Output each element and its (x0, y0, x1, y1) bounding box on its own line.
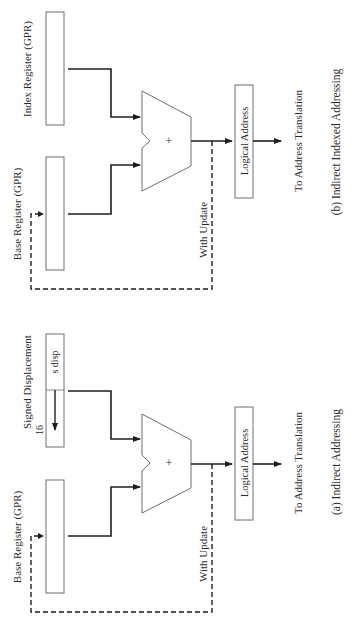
panel-a-indirect: s disp Signed Displacement 16 Base Regis… (11, 334, 343, 612)
base-register-label-a: Base Register (GPR) (11, 491, 24, 584)
signed-displacement-label: Signed Displacement (21, 335, 33, 429)
base-register-box (46, 157, 64, 270)
base-to-adder-wire (68, 165, 140, 214)
feedback-arrowhead-a (38, 533, 44, 539)
logical-address-label: Logical Address (239, 107, 250, 176)
s-disp-field-label: s disp (49, 350, 60, 373)
displacement-width-label: 16 (34, 425, 45, 435)
base-to-adder-wire-a (68, 487, 140, 536)
with-update-label-a: With Update (197, 526, 209, 582)
to-address-translation-label: To Address Translation (292, 90, 304, 192)
panel-b-indirect-indexed: Index Register (GPR) Base Register (GPR)… (11, 12, 343, 289)
caption-b: (b) Indirect Indexed Addressing (330, 68, 343, 215)
index-register-label: Index Register (GPR) (21, 21, 34, 117)
to-address-translation-label-a: To Address Translation (292, 412, 304, 514)
addressing-modes-diagram: Index Register (GPR) Base Register (GPR)… (0, 0, 352, 636)
with-update-label: With Update (197, 202, 209, 258)
adder-plus-symbol: + (166, 134, 173, 148)
feedback-arrowhead (38, 211, 44, 217)
disp-to-adder-wire (68, 391, 140, 439)
index-register-box (46, 12, 64, 125)
caption-a: (a) Indirect Addressing (330, 409, 343, 515)
base-register-box-a (46, 480, 64, 593)
base-register-label: Base Register (GPR) (11, 168, 24, 261)
index-to-adder-wire (68, 69, 140, 117)
logical-address-label-a: Logical Address (239, 429, 250, 498)
adder-plus-symbol-a: + (166, 456, 173, 470)
